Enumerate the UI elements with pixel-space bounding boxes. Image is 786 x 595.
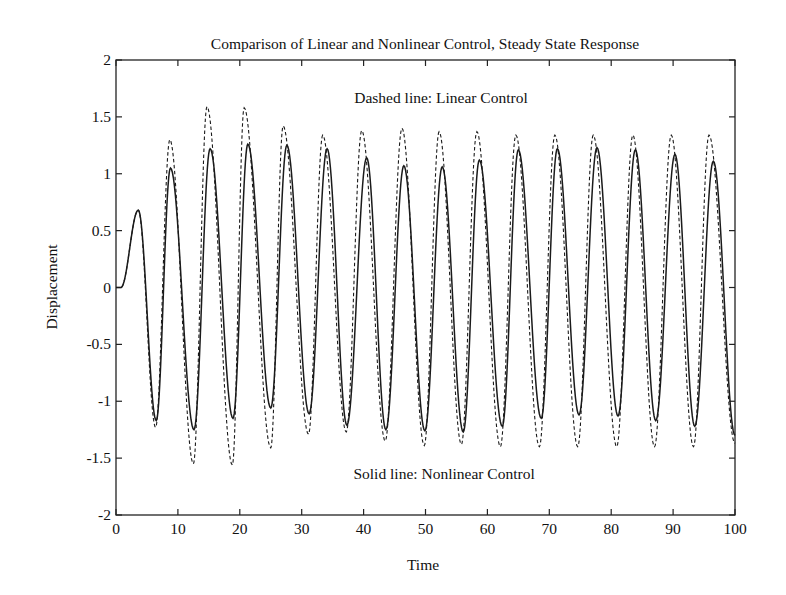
line-chart: Comparison of Linear and Nonlinear Contr… [0, 0, 786, 595]
x-tick-label: 0 [112, 520, 120, 537]
solid-line-legend: Solid line: Nonlinear Control [353, 465, 534, 482]
y-tick-label: 1 [103, 165, 111, 182]
y-tick-label: -1.5 [86, 449, 111, 466]
plot-area: -2-1.5-1-0.500.511.52 010203040506070809… [86, 51, 746, 537]
y-tick-label: 0 [103, 279, 111, 296]
y-axis-label: Displacement [43, 244, 60, 330]
linear-control-line [116, 107, 735, 465]
y-tick-label: -1 [98, 392, 111, 409]
y-tick-label: 2 [103, 51, 111, 68]
x-tick-label: 30 [294, 520, 310, 537]
y-tick-label: 0.5 [92, 222, 112, 239]
nonlinear-control-line [116, 144, 735, 435]
dashed-line-legend: Dashed line: Linear Control [354, 89, 527, 106]
data-series [116, 107, 735, 465]
y-axis-ticks: -2-1.5-1-0.500.511.52 [86, 51, 735, 523]
y-tick-label: 1.5 [92, 108, 112, 125]
x-tick-label: 40 [356, 520, 372, 537]
y-tick-label: -0.5 [86, 335, 111, 352]
chart-title: Comparison of Linear and Nonlinear Contr… [211, 35, 639, 52]
x-tick-label: 10 [170, 520, 186, 537]
y-tick-label: -2 [98, 506, 111, 523]
x-tick-label: 20 [232, 520, 248, 537]
x-tick-label: 80 [603, 520, 619, 537]
x-tick-label: 60 [480, 520, 496, 537]
x-tick-label: 70 [542, 520, 558, 537]
x-tick-label: 90 [665, 520, 681, 537]
annotations: Dashed line: Linear ControlSolid line: N… [353, 89, 534, 481]
x-axis-label: Time [407, 556, 439, 573]
x-tick-label: 100 [723, 520, 747, 537]
axes-box [116, 60, 735, 515]
x-tick-label: 50 [418, 520, 434, 537]
